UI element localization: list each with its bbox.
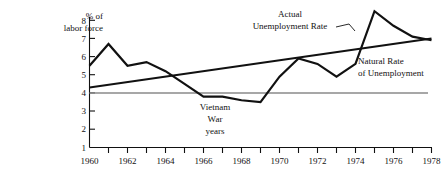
- actual-rate-label-line1: Actual: [278, 9, 302, 19]
- x-tick-label: 1966: [195, 156, 214, 166]
- x-tick-label: 1968: [233, 156, 252, 166]
- vietnam-label-line1: Vietnam: [200, 102, 230, 112]
- x-tick-label: 1962: [119, 156, 137, 166]
- x-tick-label: 1974: [347, 156, 366, 166]
- x-ticks: [109, 148, 432, 154]
- y-tick-label: 4: [82, 88, 87, 98]
- x-tick-label: 1960: [81, 156, 100, 166]
- y-tick-label: 6: [82, 52, 87, 62]
- y-tick-label: 3: [82, 106, 87, 116]
- x-tick-labels: 1960 1962 1964 1966 1968 1970 1972 1974 …: [81, 156, 442, 166]
- y-axis-label-line1: % of: [86, 11, 103, 21]
- y-tick-label: 7: [82, 34, 87, 44]
- vietnam-label-line2: War: [208, 114, 223, 124]
- natural-rate-label-line1: Natural Rate: [358, 56, 404, 66]
- unemployment-chart: % of labor force 8 7 6 5 4 3 2 1: [0, 0, 444, 172]
- y-tick-label: 2: [82, 124, 87, 134]
- actual-rate-leader-line: [336, 24, 355, 31]
- vietnam-label-line3: years: [206, 126, 225, 136]
- actual-rate-label-line2: Unemployment Rate: [253, 21, 328, 31]
- y-tick-label: 1: [82, 143, 87, 153]
- x-tick-label: 1978: [423, 156, 442, 166]
- x-tick-label: 1970: [271, 156, 290, 166]
- y-tick-label: 5: [82, 70, 87, 80]
- natural-rate-label-line2: of Unemployment: [358, 68, 424, 78]
- y-tick-labels: 8 7 6 5 4 3 2 1: [82, 16, 87, 153]
- x-tick-label: 1964: [157, 156, 176, 166]
- y-ticks: [90, 20, 96, 129]
- x-tick-label: 1976: [385, 156, 404, 166]
- x-tick-label: 1972: [309, 156, 327, 166]
- y-tick-label: 8: [82, 16, 87, 26]
